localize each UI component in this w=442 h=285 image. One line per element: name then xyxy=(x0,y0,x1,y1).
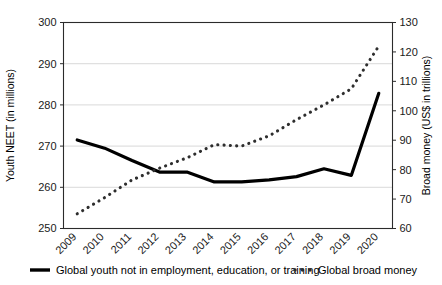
left-axis-title: Youth NEET (in millions) xyxy=(4,69,16,182)
left-axis-tick-label: 280 xyxy=(38,99,56,111)
right-axis-title: Broad money (US$ in trillions) xyxy=(420,56,432,195)
legend-label-youth-neet: Global youth not in employment, educatio… xyxy=(56,264,320,276)
series-line-1 xyxy=(77,93,379,182)
right-axis-tick-label: 130 xyxy=(400,16,418,28)
right-axis-tick-label: 110 xyxy=(400,75,418,87)
x-axis-tick-label: 2020 xyxy=(354,230,380,256)
left-axis-tick-label: 250 xyxy=(38,222,56,234)
data-series-group xyxy=(77,46,379,214)
x-axis-tick-label: 2013 xyxy=(162,230,188,256)
plot-area-border xyxy=(64,23,393,229)
legend-marker-dot-2 xyxy=(301,268,304,271)
left-axis-tick-label: 260 xyxy=(38,181,56,193)
right-axis-ticks-group: 60708090100110120130 xyxy=(393,16,418,234)
right-axis-tick-label: 60 xyxy=(400,222,412,234)
left-axis-tick-label: 270 xyxy=(38,140,56,152)
x-axis-tick-label: 2016 xyxy=(245,230,271,256)
right-axis-tick-label: 70 xyxy=(400,193,412,205)
left-axis-tick-label: 300 xyxy=(38,16,56,28)
chart-legend: Global youth not in employment, educatio… xyxy=(30,264,418,276)
x-axis-tick-label: 2017 xyxy=(272,230,298,256)
x-axis-tick-label: 2011 xyxy=(108,230,133,255)
legend-marker-dot-3 xyxy=(308,268,311,271)
gridlines-group xyxy=(64,64,393,188)
x-axis-tick-label: 2019 xyxy=(327,230,353,256)
dual-axis-line-chart: 250260270280290300 60708090100110120130 … xyxy=(0,0,442,285)
x-axis-tick-label: 2018 xyxy=(300,230,326,256)
series-line-2 xyxy=(77,46,379,214)
left-axis-tick-label: 290 xyxy=(38,58,56,70)
right-axis-tick-label: 90 xyxy=(400,134,412,146)
legend-label-broad-money: Global broad money xyxy=(318,264,418,276)
right-axis-tick-label: 80 xyxy=(400,164,412,176)
chart-canvas: 250260270280290300 60708090100110120130 … xyxy=(0,0,442,285)
x-axis-tick-label: 2015 xyxy=(217,230,243,256)
x-axis-tick-label: 2014 xyxy=(190,230,216,256)
right-axis-tick-label: 100 xyxy=(400,105,418,117)
left-axis-ticks-group: 250260270280290300 xyxy=(38,16,63,234)
right-axis-tick-label: 120 xyxy=(400,46,418,58)
x-axis-tick-label: 2010 xyxy=(80,230,106,256)
x-axis-tick-label: 2012 xyxy=(135,230,161,256)
legend-marker-dot-1 xyxy=(293,268,296,271)
x-axis-tick-label: 2009 xyxy=(53,230,79,256)
x-axis-ticks-group: 2009201020112012201320142015201620172018… xyxy=(53,230,380,256)
